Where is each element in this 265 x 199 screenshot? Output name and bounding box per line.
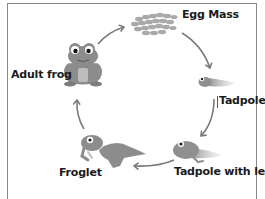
arrow-tadpole-to-legs [201,99,214,136]
tadpole-icon [199,77,237,87]
arrow-eggs-to-tadpole [182,33,210,68]
arrow-legs-to-froglet [134,160,174,166]
label-adult-frog: Adult frog [11,68,72,81]
label-tadpole-tick [217,96,218,108]
arrow-froglet-to-adult [77,100,84,129]
label-egg-mass: Egg Mass [182,8,239,21]
tadpole-with-legs-icon [173,141,222,162]
label-tadpole: Tadpole [219,94,265,107]
label-tadpole-with-legs: Tadpole with legs [174,165,265,178]
label-froglet: Froglet [59,166,102,179]
arrow-adult-to-eggs [98,27,124,44]
froglet-icon [81,135,146,168]
egg-mass-icon [131,13,178,36]
